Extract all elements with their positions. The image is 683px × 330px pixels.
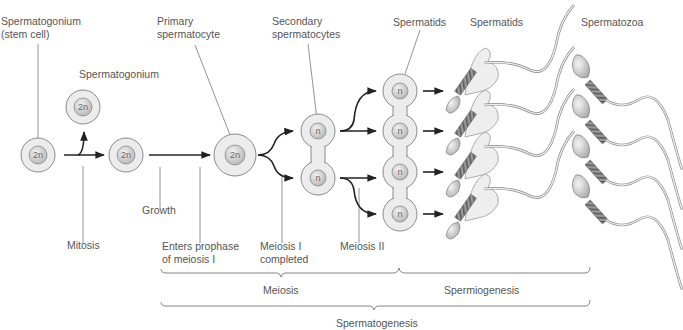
label-primary-spermatocyte: Primary spermatocyte [157,15,220,40]
spermatogenesis-diagram: 2n 2n 2n 2n n n n [0,0,683,330]
cell-primary-spermatocyte: 2n [214,134,256,176]
cell-daughter: 2n [109,138,143,172]
label-meiosis-ii: Meiosis II [340,240,384,253]
svg-text:n: n [397,167,402,177]
label-line: (stem cell) [1,28,81,41]
label-spermatids-2: Spermatids [470,16,523,29]
label-spermatozoa: Spermatozoa [581,16,643,29]
label-meiosis-i: Meiosis I completed [260,240,308,265]
svg-text:2n: 2n [230,150,240,160]
label-line: Spermatogonium [1,15,81,28]
label-spermatogonium: Spermatogonium [79,68,159,81]
label-spermiogenesis: Spermiogenesis [444,284,519,297]
spermatozoa [572,55,682,290]
label-stem-cell: Spermatogonium (stem cell) [1,15,81,40]
label-line: Enters prophase [162,240,239,253]
label-enters-prophase: Enters prophase of meiosis I [162,240,239,265]
brackets [161,267,590,310]
svg-text:2n: 2n [78,102,88,112]
label-line: spermatocytes [272,28,340,41]
label-line: Meiosis I [260,240,308,253]
cells-spermatids: n n n n [383,74,417,231]
label-secondary-spermatocytes: Secondary spermatocytes [272,15,340,40]
label-growth: Growth [142,204,176,217]
label-mitosis: Mitosis [67,239,100,252]
svg-text:n: n [397,86,402,96]
svg-text:n: n [397,209,402,219]
svg-text:n: n [397,126,402,136]
svg-text:n: n [315,173,320,183]
svg-text:2n: 2n [33,150,43,160]
label-line: spermatocyte [157,28,220,41]
label-meiosis: Meiosis [263,284,299,297]
label-spermatids-1: Spermatids [393,16,446,29]
label-line: of meiosis I [162,253,239,266]
developing-spermatids [446,5,574,239]
svg-text:n: n [315,126,320,136]
label-spermatogenesis: Spermatogenesis [336,317,418,330]
cell-spermatogonium: 2n [66,90,100,124]
label-line: Secondary [272,15,340,28]
label-line: Primary [157,15,220,28]
cells-secondary-spermatocytes: n n [301,114,335,195]
label-line: completed [260,253,308,266]
cell-stem: 2n [21,138,55,172]
svg-text:2n: 2n [121,150,131,160]
